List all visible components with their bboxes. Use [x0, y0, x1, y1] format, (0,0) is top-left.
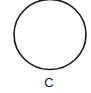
circle-figure: C [0, 0, 91, 93]
figure-label: C [0, 76, 91, 90]
